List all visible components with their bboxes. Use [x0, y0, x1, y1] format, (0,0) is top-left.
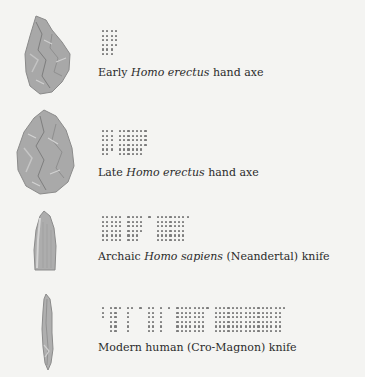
dot [160, 312, 162, 314]
dot-block [102, 216, 121, 241]
dot [102, 139, 104, 141]
dot [245, 325, 247, 327]
dot [245, 321, 247, 323]
dot-block [148, 307, 154, 332]
dot [152, 330, 154, 332]
dot [178, 230, 180, 232]
dot [198, 307, 200, 309]
dot [189, 321, 191, 323]
dot [102, 234, 104, 236]
dot [169, 225, 171, 227]
dot [111, 139, 113, 141]
dot [127, 135, 129, 137]
dot [136, 135, 138, 137]
hand-axe-large-icon [14, 108, 76, 196]
dot [123, 139, 125, 141]
dot [119, 148, 121, 150]
dot [219, 330, 221, 332]
dot [227, 330, 229, 332]
dot [245, 330, 247, 332]
dot [136, 221, 138, 223]
dot [189, 325, 191, 327]
dot [139, 307, 141, 309]
caption-modern-human-cro-magnon: Modern human (Cro-Magnon) knife [98, 341, 297, 354]
dot-block [160, 307, 162, 332]
dot [127, 144, 129, 146]
dot [144, 148, 146, 150]
dot [111, 225, 113, 227]
dot [161, 221, 163, 223]
dot [160, 307, 162, 309]
dot [114, 330, 116, 332]
dot [157, 234, 159, 236]
dot [227, 321, 229, 323]
dot [215, 325, 217, 327]
dot [161, 225, 163, 227]
dot [102, 230, 104, 232]
dot [181, 316, 183, 318]
dot [257, 325, 259, 327]
dot [119, 239, 121, 241]
dot [106, 35, 108, 37]
dot [198, 321, 200, 323]
dot [185, 321, 187, 323]
dot [174, 216, 176, 218]
dot [148, 325, 150, 327]
dot [157, 221, 159, 223]
dot [169, 239, 171, 241]
dot [102, 135, 104, 137]
dot-block [215, 307, 286, 332]
dot [165, 234, 167, 236]
dot [111, 39, 113, 41]
dot [223, 307, 225, 309]
dot [236, 312, 238, 314]
dot [148, 312, 150, 314]
dot [148, 216, 150, 218]
dot [127, 234, 129, 236]
dot [270, 321, 272, 323]
dot [119, 216, 121, 218]
dot [127, 239, 129, 241]
dot [140, 230, 142, 232]
dot [144, 153, 146, 155]
dot [279, 312, 281, 314]
dot [279, 307, 281, 309]
dot-block [102, 130, 113, 155]
dot [131, 330, 133, 332]
dot-block [102, 307, 104, 318]
dot [132, 130, 134, 132]
dot [140, 221, 142, 223]
dot [262, 325, 264, 327]
dot [132, 139, 134, 141]
dot [127, 312, 129, 314]
dot [110, 316, 112, 318]
dot [189, 307, 191, 309]
dot-block [157, 216, 189, 241]
dot [160, 330, 162, 332]
dot [165, 221, 167, 223]
row-modern-human-cro-magnon: Modern human (Cro-Magnon) knife [0, 285, 365, 377]
dot [187, 216, 189, 218]
dot [111, 239, 113, 241]
dot [198, 330, 200, 332]
dot [223, 325, 225, 327]
dot [169, 216, 171, 218]
dot [189, 330, 191, 332]
dot [202, 307, 204, 309]
dot [194, 316, 196, 318]
dot [194, 307, 196, 309]
dot [283, 316, 285, 318]
dot [176, 321, 178, 323]
dot [174, 225, 176, 227]
caption-early-homo-erectus: Early Homo erectus hand axe [98, 66, 263, 79]
dot [140, 130, 142, 132]
dot-block [127, 216, 142, 241]
dot [127, 316, 129, 318]
dot [223, 312, 225, 314]
dot [249, 316, 251, 318]
dot [106, 230, 108, 232]
dot [102, 221, 104, 223]
caption-text: Archaic [98, 250, 144, 263]
dot [102, 48, 104, 50]
dot [206, 330, 208, 332]
